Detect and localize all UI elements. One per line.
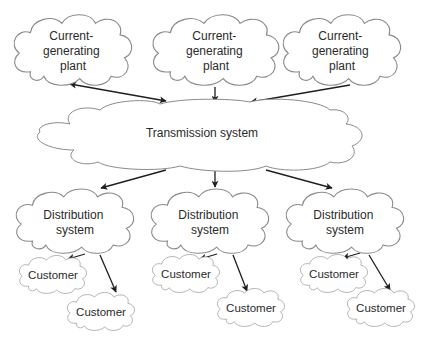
- customer-1b-label: Customer: [76, 306, 126, 318]
- customer-2b-label: Customer: [226, 302, 276, 314]
- edge-distribution1-customer1b: [100, 255, 116, 292]
- node-customer-3a: Customer: [300, 254, 367, 292]
- customer-3b-label: Customer: [356, 302, 406, 314]
- node-transmission-system: Transmission system: [37, 99, 362, 171]
- node-distribution-3: Distribution system: [286, 189, 404, 253]
- node-customer-3b: Customer: [347, 288, 414, 326]
- edge-plant1-transmission: [70, 84, 166, 101]
- power-system-diagram: Current- generating plant Current- gener…: [0, 0, 435, 348]
- edge-distribution3-customer3b: [369, 255, 390, 290]
- node-plant-3: Current- generating plant: [283, 15, 401, 85]
- node-customer-2b: Customer: [217, 288, 284, 326]
- node-customer-1a: Customer: [19, 255, 86, 293]
- transmission-label: Transmission system: [146, 126, 258, 140]
- edge-transmission-distribution3: [266, 170, 332, 188]
- customer-2a-label: Customer: [161, 268, 211, 280]
- edge-transmission-distribution1: [101, 170, 166, 188]
- node-customer-2a: Customer: [152, 254, 219, 292]
- node-distribution-1: Distribution system: [16, 189, 134, 253]
- node-plant-2: Current- generating plant: [153, 15, 279, 85]
- edge-distribution2-customer2b: [233, 255, 247, 291]
- customer-3a-label: Customer: [309, 268, 359, 280]
- node-plant-1: Current- generating plant: [14, 15, 132, 85]
- node-customer-1b: Customer: [67, 292, 134, 330]
- customer-1a-label: Customer: [28, 269, 78, 281]
- node-distribution-2: Distribution system: [151, 189, 269, 253]
